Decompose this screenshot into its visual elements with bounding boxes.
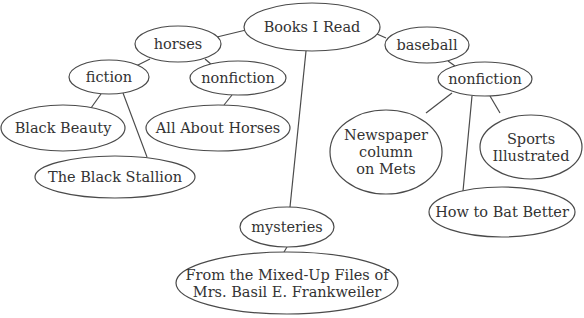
concept-web-diagram: Books I ReadhorsesfictionnonfictionBlack… xyxy=(0,0,584,318)
node-horses: horses xyxy=(135,26,221,62)
edge-horses-fiction-to-black-stallion xyxy=(123,93,147,157)
node-baseball: baseball xyxy=(385,27,469,63)
node-mysteries: mysteries xyxy=(240,207,334,247)
edge-horses-nonfiction-to-all-about-horses xyxy=(224,95,232,105)
node-label: Illustrated xyxy=(493,148,570,164)
node-label: horses xyxy=(154,36,202,52)
node-label: Mrs. Basil E. Frankweiler xyxy=(193,284,381,300)
concept-nodes: Books I ReadhorsesfictionnonfictionBlack… xyxy=(1,3,582,314)
node-label: baseball xyxy=(396,37,458,53)
node-label: The Black Stallion xyxy=(48,169,182,185)
node-sports-illustrated: SportsIllustrated xyxy=(480,115,582,179)
node-label: From the Mixed-Up Files of xyxy=(185,267,390,283)
node-mixed-up-files: From the Mixed-Up Files ofMrs. Basil E. … xyxy=(176,252,398,314)
node-label: nonfiction xyxy=(201,70,275,86)
edge-baseball-nonfiction-to-sports-illustrated xyxy=(490,96,500,113)
node-label: on Mets xyxy=(356,161,415,177)
edge-baseball-nonfiction-to-newspaper-column xyxy=(426,93,452,113)
node-label: Sports xyxy=(507,131,555,147)
node-label: How to Bat Better xyxy=(435,204,569,220)
node-label: column xyxy=(359,144,413,160)
node-label: nonfiction xyxy=(448,71,522,87)
node-root: Books I Read xyxy=(244,3,380,51)
node-label: Newspaper xyxy=(344,127,428,143)
node-label: All About Horses xyxy=(155,120,280,136)
node-how-to-bat: How to Bat Better xyxy=(429,187,575,237)
node-newspaper-column: Newspapercolumnon Mets xyxy=(330,110,442,194)
node-label: Black Beauty xyxy=(15,120,113,136)
edge-mysteries-to-mixed-up-files xyxy=(284,247,287,252)
node-label: mysteries xyxy=(251,219,322,235)
node-horses-nonfiction: nonfiction xyxy=(190,61,286,95)
edge-root-to-baseball xyxy=(377,34,386,38)
node-all-about-horses: All About Horses xyxy=(146,105,290,151)
node-black-stallion: The Black Stallion xyxy=(35,156,195,198)
edge-baseball-to-baseball-nonfiction xyxy=(448,61,455,66)
node-black-beauty: Black Beauty xyxy=(1,105,125,151)
edge-root-to-horses xyxy=(217,30,246,37)
node-horses-fiction: fiction xyxy=(69,60,149,94)
node-baseball-nonfiction: nonfiction xyxy=(438,62,532,96)
edge-root-to-mysteries xyxy=(290,51,306,207)
node-label: Books I Read xyxy=(264,19,361,35)
edge-baseball-nonfiction-to-how-to-bat xyxy=(463,96,472,191)
edge-horses-fiction-to-black-beauty xyxy=(91,94,101,108)
node-label: fiction xyxy=(86,69,132,85)
